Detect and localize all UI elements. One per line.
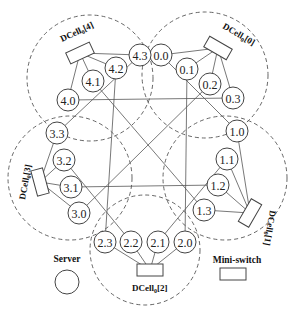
link-2.3-4.2 <box>105 68 116 242</box>
dcell0-4-label: DCell0[4] <box>59 20 96 45</box>
link-0.1-2.0 <box>185 69 187 242</box>
server-label: 3.3 <box>50 127 65 141</box>
server-label: 0.3 <box>226 92 241 106</box>
server-4.1: 4.1 <box>82 70 104 92</box>
mini-switch-1 <box>238 199 261 228</box>
server-label: 1.0 <box>230 125 245 139</box>
server-2.1: 2.1 <box>147 231 169 253</box>
server-4.3: 4.3 <box>129 44 151 66</box>
server-0.0: 0.0 <box>150 44 172 66</box>
server-1.3: 1.3 <box>193 199 215 221</box>
server-label: 2.1 <box>151 236 166 250</box>
server-3.1: 3.1 <box>60 176 82 198</box>
legend-server-icon <box>55 270 79 294</box>
server-2.0: 2.0 <box>174 231 196 253</box>
link-1.2-3.1 <box>71 185 218 187</box>
server-3.3: 3.3 <box>46 122 68 144</box>
server-2.3: 2.3 <box>94 231 116 253</box>
dcell0-3-label: DCell0[3] <box>17 164 34 201</box>
server-label: 4.1 <box>86 75 101 89</box>
server-label: 3.2 <box>57 154 72 168</box>
server-label: 0.1 <box>180 63 195 77</box>
server-4.2: 4.2 <box>105 57 127 79</box>
server-2.2: 2.2 <box>120 231 142 253</box>
server-label: 1.1 <box>220 153 235 167</box>
server-0.2: 0.2 <box>199 73 221 95</box>
dcell-diagram: DCell0[0]0.00.10.20.3DCell0[1]1.01.11.21… <box>0 0 290 317</box>
intra-link <box>237 131 250 213</box>
server-1.2: 1.2 <box>207 174 229 196</box>
server-0.1: 0.1 <box>176 58 198 80</box>
server-label: 3.1 <box>64 181 79 195</box>
server-label: 2.3 <box>98 236 113 250</box>
mini-switch-0 <box>204 36 233 59</box>
server-label: 3.0 <box>72 207 87 221</box>
nodes: DCell0[0]0.00.10.20.3DCell0[1]1.01.11.21… <box>17 20 278 294</box>
legend-switch-icon <box>220 268 246 280</box>
legend-switch-label: Mini-switch <box>213 255 262 265</box>
dcell0-2-label: DCell0[2] <box>132 283 168 294</box>
legend-server-label: Server <box>54 254 82 264</box>
server-label: 4.2 <box>109 62 124 76</box>
server-1.1: 1.1 <box>216 148 238 170</box>
dcell0-1-label: DCell0[1] <box>261 209 278 246</box>
server-label: 2.2 <box>124 236 139 250</box>
server-label: 4.0 <box>61 94 76 108</box>
server-label: 0.2 <box>203 78 218 92</box>
server-3.2: 3.2 <box>53 149 75 171</box>
server-label: 0.0 <box>154 49 169 63</box>
server-1.0: 1.0 <box>226 120 248 142</box>
server-label: 1.2 <box>211 179 226 193</box>
mini-switch-2 <box>137 264 163 276</box>
server-4.0: 4.0 <box>57 89 79 111</box>
mini-switch-3 <box>31 168 49 196</box>
dcell0-0-label: DCell0[0] <box>221 21 257 48</box>
server-label: 2.0 <box>178 236 193 250</box>
server-label: 1.3 <box>197 204 212 218</box>
server-3.0: 3.0 <box>68 202 90 224</box>
server-label: 4.3 <box>133 49 148 63</box>
server-0.3: 0.3 <box>222 87 244 109</box>
mini-switch-4 <box>66 42 95 64</box>
